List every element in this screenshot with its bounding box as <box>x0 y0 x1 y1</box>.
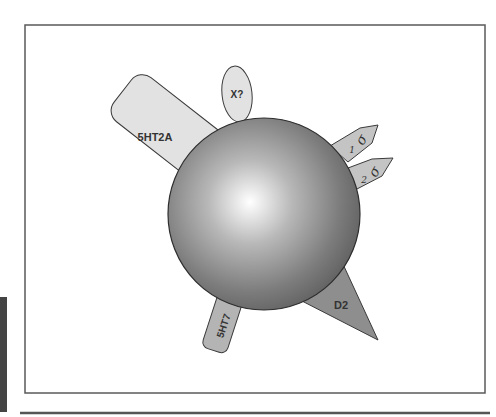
label-d2: D2 <box>334 299 348 311</box>
cell-sphere <box>168 118 360 310</box>
label-x: X? <box>231 89 244 100</box>
subscript-sigma-2: 2 <box>360 175 367 185</box>
side-bar <box>0 297 7 412</box>
receptor-diagram: 5HT2A X? σ 1 σ 2 D2 5HT7 <box>0 0 496 417</box>
label-5ht2a: 5HT2A <box>138 131 173 143</box>
subscript-sigma-1: 1 <box>349 145 355 155</box>
